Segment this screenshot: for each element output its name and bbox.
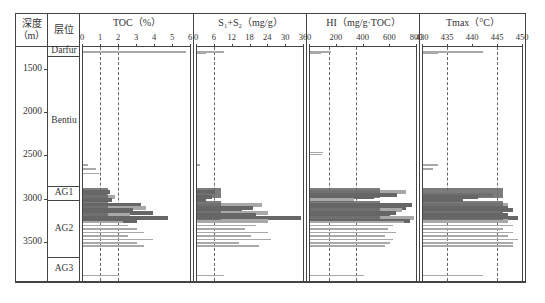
geochem-figure: 深度 （m） 层位 DarfurBentiuAG1AG2AG3 15002000… xyxy=(0,0,545,303)
axis-tick-label: 18 xyxy=(245,32,254,42)
data-bar xyxy=(197,235,251,237)
data-bar xyxy=(310,242,390,244)
data-bar xyxy=(197,164,200,166)
dense-sample-block xyxy=(83,201,108,220)
layer-header: 层位 xyxy=(48,24,80,36)
data-bar xyxy=(423,239,518,241)
frame-top xyxy=(15,13,526,14)
panel-title: Tmax（°C） xyxy=(420,17,526,29)
data-bar xyxy=(310,52,321,54)
axis-tick-label: 6 xyxy=(212,32,216,42)
axis-tick-label: 445 xyxy=(491,32,504,42)
frame-right xyxy=(525,13,526,282)
col-sep-s1s2 xyxy=(306,13,307,282)
depth-tick-label: 3000 xyxy=(12,193,42,203)
data-bar xyxy=(423,52,438,54)
axis-tick-label: 400 xyxy=(356,32,369,42)
depth-tick-label: 2500 xyxy=(12,149,42,159)
depth-tick xyxy=(44,199,48,200)
data-bar xyxy=(83,239,153,241)
axis-tick-label: 12 xyxy=(227,32,236,42)
data-bar xyxy=(83,232,144,234)
data-bar xyxy=(423,232,513,234)
data-bar xyxy=(423,245,513,247)
data-bar xyxy=(197,245,259,247)
data-bar xyxy=(310,235,385,237)
data-bar xyxy=(310,245,385,247)
data-bar xyxy=(197,242,239,244)
axis-tick-label: 24 xyxy=(263,32,272,42)
axis-tick-label: 0 xyxy=(194,32,198,42)
axis-tick-label: 6 xyxy=(188,32,192,42)
dense-sample-block xyxy=(197,188,221,198)
depth-tick xyxy=(44,112,48,113)
depth-tick-label: 2000 xyxy=(12,106,42,116)
data-bar xyxy=(197,52,206,54)
plot-right xyxy=(416,46,417,281)
axis-tick-label: 0 xyxy=(307,32,311,42)
data-bar xyxy=(83,275,119,277)
axis-tick-label: 0 xyxy=(80,32,84,42)
data-bar xyxy=(197,221,236,223)
layer-boundary xyxy=(48,200,80,201)
plot-right xyxy=(303,46,304,281)
data-bar xyxy=(310,225,393,227)
data-bar xyxy=(83,235,128,237)
axis-tick-label: 30 xyxy=(281,32,290,42)
depth-header: 深度 （m） xyxy=(15,18,48,42)
depth-tick-label: 1500 xyxy=(12,63,42,73)
data-bar xyxy=(197,239,271,241)
plot-right xyxy=(522,46,523,281)
data-bar xyxy=(83,164,88,166)
data-bar xyxy=(197,228,245,230)
dense-sample-block xyxy=(83,188,108,198)
data-bar xyxy=(83,245,144,247)
frame-bottom xyxy=(15,281,526,283)
plot-top xyxy=(422,46,522,47)
data-bar xyxy=(197,225,256,227)
plot-right xyxy=(190,46,191,281)
data-bar xyxy=(423,221,498,223)
axis-tick-label: 4 xyxy=(152,32,156,42)
axis-tick-label: 2 xyxy=(116,32,120,42)
axis-tick-label: 1 xyxy=(98,32,102,42)
data-bar xyxy=(83,225,128,227)
data-bar xyxy=(423,225,513,227)
data-bar xyxy=(423,168,433,170)
axis-tick-label: 440 xyxy=(466,32,479,42)
data-bar xyxy=(423,275,483,277)
data-bar xyxy=(310,154,322,156)
data-bar xyxy=(83,221,123,223)
plot-top xyxy=(309,46,416,47)
data-bar xyxy=(310,228,388,230)
layer-label: Darfur xyxy=(48,45,80,55)
depth-tick xyxy=(44,155,48,156)
data-bar xyxy=(83,228,137,230)
plot-top xyxy=(196,46,303,47)
depth-label: 深度 xyxy=(15,18,48,30)
depth-tick-label: 3500 xyxy=(12,236,42,246)
dense-sample-block xyxy=(310,201,380,220)
panel-title: TOC（%） xyxy=(80,17,194,29)
axis-tick-label: 600 xyxy=(383,32,396,42)
depth-unit: （m） xyxy=(15,30,48,42)
data-bar xyxy=(83,168,96,170)
depth-tick xyxy=(44,69,48,70)
data-bar xyxy=(83,52,137,54)
axis-tick-label: 450 xyxy=(516,32,529,42)
layer-label: AG3 xyxy=(48,263,80,273)
data-bar xyxy=(423,228,503,230)
dense-sample-block xyxy=(197,201,221,220)
data-bar xyxy=(423,164,438,166)
data-bar xyxy=(310,232,396,234)
axis-tick-label: 200 xyxy=(329,32,342,42)
layer-boundary xyxy=(48,257,80,258)
panel-title: HI（mg/g·TOC） xyxy=(307,17,420,29)
data-bar xyxy=(423,242,513,244)
plot-top xyxy=(82,46,190,47)
data-bar xyxy=(310,221,404,223)
depth-tick xyxy=(44,242,48,243)
data-bar xyxy=(197,232,268,234)
layer-boundary xyxy=(48,56,80,57)
data-bar xyxy=(83,242,137,244)
